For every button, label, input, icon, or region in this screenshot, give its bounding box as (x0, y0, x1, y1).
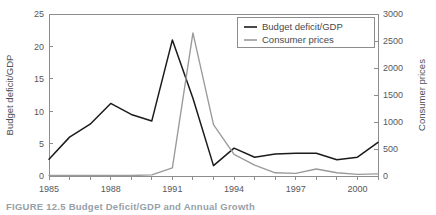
left-axis: 0510152025Budget deficit/GDP (4, 9, 53, 181)
right-axis: 050010001500200025003000Consumer prices (374, 9, 427, 181)
left-axis-tick-label: 20 (34, 42, 44, 52)
chart-legend: Budget deficit/GDPConsumer prices (237, 17, 374, 47)
legend-label-1: Consumer prices (262, 34, 334, 45)
right-axis-tick-label: 0 (383, 171, 388, 181)
x-axis-tick-label: 2000 (347, 184, 367, 194)
bottom-axis: 198519881991199419972000 (39, 176, 378, 194)
x-axis-tick-label: 1985 (39, 184, 59, 194)
x-axis-tick-label: 1997 (286, 184, 306, 194)
left-axis-tick-label: 5 (39, 139, 44, 149)
x-axis-tick-label: 1994 (224, 184, 244, 194)
right-axis-tick-label: 2000 (383, 63, 403, 73)
x-axis-tick-label: 1991 (162, 184, 182, 194)
left-axis-tick-label: 25 (34, 9, 44, 19)
chart-canvas: 0510152025Budget deficit/GDP 05001000150… (0, 0, 436, 215)
figure-caption: FIGURE 12.5 Budget Deficit/GDP and Annua… (6, 202, 255, 212)
right-axis-tick-label: 1500 (383, 90, 403, 100)
right-axis-tick-label: 3000 (383, 9, 403, 19)
left-axis-title: Budget deficit/GDP (4, 55, 15, 136)
left-axis-tick-label: 15 (34, 74, 44, 84)
left-axis-tick-label: 0 (39, 171, 44, 181)
legend-label-0: Budget deficit/GDP (262, 21, 343, 32)
x-axis-tick-label: 1988 (101, 184, 121, 194)
figure-caption-strip: FIGURE 12.5 Budget Deficit/GDP and Annua… (0, 202, 436, 215)
right-axis-tick-label: 1000 (383, 117, 403, 127)
right-axis-tick-label: 500 (383, 144, 398, 154)
figure-container: 0510152025Budget deficit/GDP 05001000150… (0, 0, 436, 215)
right-axis-tick-label: 2500 (383, 36, 403, 46)
right-axis-title: Consumer prices (416, 59, 427, 131)
left-axis-tick-label: 10 (34, 107, 44, 117)
